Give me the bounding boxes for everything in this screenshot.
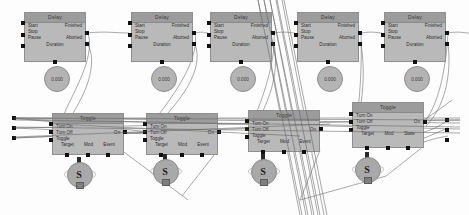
graph-input-pin[interactable]: [12, 136, 16, 140]
pin-out-event[interactable]: [200, 153, 204, 157]
pin-in-turn-off[interactable]: [143, 130, 147, 134]
graph-canvas[interactable]: Delay Start Finished Stop Pause Aborted …: [0, 0, 469, 215]
pin-in-turn-off[interactable]: [245, 127, 249, 131]
pin-out-state[interactable]: [406, 146, 410, 150]
pin-in-pause[interactable]: [381, 44, 385, 48]
pin-in-start[interactable]: [381, 21, 385, 25]
duration-value-display[interactable]: 0.000: [230, 66, 256, 92]
pin-label-aborted: Aborted: [66, 35, 82, 41]
pin-out-on[interactable]: [319, 127, 323, 131]
graph-output-pin[interactable]: [445, 118, 449, 122]
pin-out-aborted[interactable]: [358, 42, 362, 46]
pin-out-duration[interactable]: [53, 60, 57, 64]
switch-base-icon: [364, 177, 372, 184]
pin-out-mod[interactable]: [86, 153, 90, 157]
pin-out-target[interactable]: [365, 146, 369, 150]
pin-in-stop[interactable]: [381, 33, 385, 37]
switch-widget[interactable]: S: [248, 157, 278, 187]
node-delay[interactable]: Delay Start Finished Stop Pause Aborted …: [384, 12, 446, 62]
pin-in-toggle[interactable]: [143, 138, 147, 142]
pin-out-on[interactable]: [423, 120, 427, 124]
pin-label-aborted: Aborted: [339, 35, 355, 41]
pin-in-start[interactable]: [128, 21, 132, 25]
pin-label-event: Event: [299, 139, 311, 145]
pin-in-start[interactable]: [21, 21, 25, 25]
pin-in-stop[interactable]: [207, 33, 211, 37]
pin-in-turn-off[interactable]: [349, 120, 353, 124]
pin-out-finished[interactable]: [85, 31, 89, 35]
pin-in-turn-on[interactable]: [245, 119, 249, 123]
pin-in-start[interactable]: [294, 21, 298, 25]
pin-out-mod[interactable]: [180, 153, 184, 157]
pin-label-event: Event: [197, 142, 209, 148]
pin-out-on[interactable]: [217, 130, 221, 134]
pin-out-duration[interactable]: [326, 60, 330, 64]
node-delay[interactable]: Delay Start Finished Stop Pause Aborted …: [297, 12, 359, 62]
pin-in-stop[interactable]: [294, 33, 298, 37]
pin-in-turn-on[interactable]: [143, 122, 147, 126]
pin-label-finished: Finished: [425, 23, 442, 29]
pin-out-duration[interactable]: [413, 60, 417, 64]
pin-label-target: Target: [61, 142, 74, 148]
node-delay[interactable]: Delay Start Finished Stop Pause Aborted …: [210, 12, 272, 62]
pin-label-mod: Mod: [178, 142, 187, 148]
graph-input-pin[interactable]: [12, 116, 16, 120]
pin-out-target[interactable]: [159, 153, 163, 157]
pin-out-finished[interactable]: [358, 31, 362, 35]
graph-input-pin[interactable]: [12, 126, 16, 130]
pin-out-finished[interactable]: [271, 31, 275, 35]
pin-out-mod[interactable]: [386, 146, 390, 150]
pin-out-duration[interactable]: [239, 60, 243, 64]
pin-out-aborted[interactable]: [85, 42, 89, 46]
pin-in-turn-on[interactable]: [49, 122, 53, 126]
pin-in-toggle[interactable]: [245, 135, 249, 139]
pin-in-pause[interactable]: [207, 44, 211, 48]
pin-in-toggle[interactable]: [349, 128, 353, 132]
pin-label-on: On: [414, 119, 420, 125]
node-delay[interactable]: Delay Start Finished Stop Pause Aborted …: [131, 12, 193, 62]
switch-widget[interactable]: S: [64, 160, 94, 190]
pin-out-finished[interactable]: [192, 31, 196, 35]
pin-in-stop[interactable]: [128, 33, 132, 37]
pin-in-pause[interactable]: [128, 44, 132, 48]
pin-label-finished: Finished: [65, 23, 82, 29]
node-toggle[interactable]: Toggle Turn On Turn Off On Toggle Target…: [146, 113, 218, 155]
pin-out-event[interactable]: [106, 153, 110, 157]
pin-in-start[interactable]: [207, 21, 211, 25]
pin-out-duration[interactable]: [160, 60, 164, 64]
node-title: Toggle: [147, 114, 217, 124]
graph-output-pin[interactable]: [445, 128, 449, 132]
pin-in-pause[interactable]: [21, 44, 25, 48]
switch-widget[interactable]: S: [352, 155, 382, 185]
pin-in-pause[interactable]: [294, 44, 298, 48]
duration-value-display[interactable]: 0.000: [317, 66, 343, 92]
pin-in-stop[interactable]: [21, 33, 25, 37]
graph-output-pin[interactable]: [445, 138, 449, 142]
pin-label-target: Target: [155, 142, 168, 148]
pin-out-aborted[interactable]: [445, 42, 449, 46]
pin-in-turn-on[interactable]: [349, 112, 353, 116]
pin-label-duration: Duration: [385, 41, 445, 48]
pin-out-aborted[interactable]: [271, 42, 275, 46]
node-toggle[interactable]: Toggle Turn On Turn Off On Toggle Target…: [352, 102, 424, 148]
node-toggle[interactable]: Toggle Turn On Turn Off On Toggle Target…: [248, 110, 320, 152]
node-toggle[interactable]: Toggle Turn On Turn Off On Toggle Target…: [52, 113, 124, 155]
pin-out-event[interactable]: [302, 150, 306, 154]
duration-value-display[interactable]: 0.000: [44, 66, 70, 92]
duration-value-display[interactable]: 0.000: [151, 66, 177, 92]
switch-widget[interactable]: S: [150, 157, 180, 187]
pin-out-target[interactable]: [261, 150, 265, 154]
pin-out-mod[interactable]: [282, 150, 286, 154]
pin-out-aborted[interactable]: [192, 42, 196, 46]
pin-label-pause: Pause: [214, 35, 227, 41]
pin-label-duration: Duration: [211, 41, 271, 48]
node-delay[interactable]: Delay Start Finished Stop Pause Aborted …: [24, 12, 86, 62]
pin-out-target[interactable]: [65, 153, 69, 157]
pin-out-finished[interactable]: [445, 31, 449, 35]
pin-in-toggle[interactable]: [49, 138, 53, 142]
pin-out-on[interactable]: [123, 130, 127, 134]
pin-label-target: Target: [257, 139, 270, 145]
pin-in-turn-off[interactable]: [49, 130, 53, 134]
pin-label-pause: Pause: [301, 35, 314, 41]
duration-value-display[interactable]: 0.000: [404, 66, 430, 92]
